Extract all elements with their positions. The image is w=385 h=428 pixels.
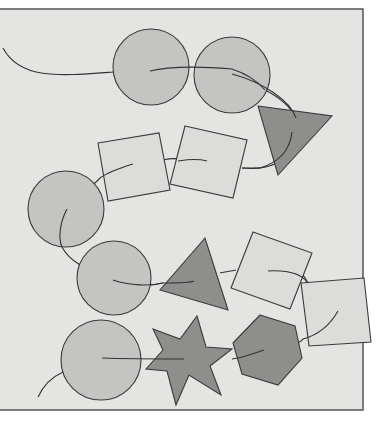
shape-chain-diagram	[0, 0, 385, 428]
circle-3	[28, 171, 104, 247]
square-1	[98, 133, 170, 201]
circle-4	[77, 241, 151, 315]
circle-5	[61, 320, 141, 400]
circle-2	[194, 37, 270, 113]
